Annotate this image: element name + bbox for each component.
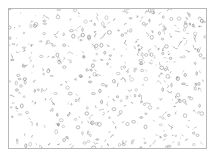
edge-texture-canvas — [9, 9, 206, 148]
edge-texture-frame: Edge-detected grayscale texture of scatt… — [8, 8, 207, 149]
